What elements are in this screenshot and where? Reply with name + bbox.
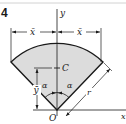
radius-extension-top (104, 63, 112, 71)
centroid-label: C (62, 63, 69, 73)
arrowhead-icon (36, 105, 39, 109)
x-axis-label: x (121, 112, 126, 121)
arrowhead-icon (52, 31, 56, 34)
alpha-right-label: α (67, 81, 73, 90)
y-axis-label: y (59, 8, 66, 18)
origin-label: O (49, 113, 57, 123)
x-bar-right-label: x̄ (77, 27, 82, 37)
sector-centroid-diagram: 4 y x x̄ x̄ C ȳ α α O r (0, 0, 126, 124)
x-bar-left-label: x̄ (30, 27, 35, 37)
arrowhead-icon (96, 31, 100, 34)
arrowhead-icon (58, 31, 62, 34)
figure-number: 4 (1, 6, 8, 20)
y-bar-label: ȳ (33, 85, 40, 95)
arrowhead-icon (12, 31, 16, 34)
alpha-left-label: α (42, 81, 48, 90)
